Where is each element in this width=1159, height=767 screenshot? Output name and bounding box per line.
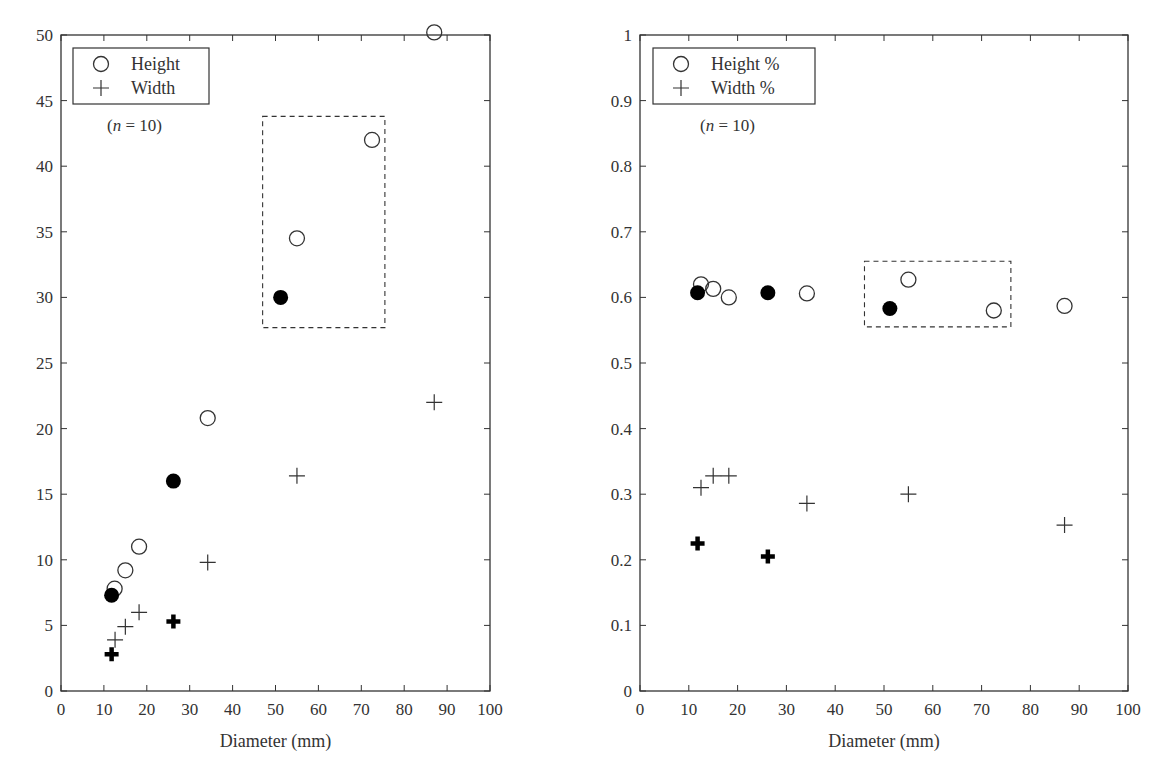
sample-size-note: (n = 10) xyxy=(107,116,162,135)
filled-circle-marker xyxy=(882,301,897,316)
bold-plus-marker xyxy=(105,647,119,661)
y-tick-label: 0 xyxy=(624,682,633,701)
bold-plus-marker xyxy=(761,550,775,564)
x-tick-label: 10 xyxy=(95,700,112,719)
y-tick-label: 0 xyxy=(45,682,54,701)
y-tick-label: 0.1 xyxy=(611,616,632,635)
open-circle-marker xyxy=(1057,298,1072,313)
series-filled-circle xyxy=(104,290,288,603)
y-tick-label: 0.4 xyxy=(611,420,633,439)
plus-marker xyxy=(426,394,442,410)
open-circle-marker xyxy=(118,563,133,578)
y-tick-label: 10 xyxy=(36,551,53,570)
right-chart-panel: 010203040506070809010000.10.20.30.40.50.… xyxy=(611,26,1141,752)
plus-marker xyxy=(693,480,709,496)
plus-marker xyxy=(1057,517,1073,533)
sample-size-note: (n = 10) xyxy=(700,116,755,135)
x-tick-label: 80 xyxy=(1022,700,1039,719)
open-circle-marker xyxy=(706,281,721,296)
y-tick-label: 0.7 xyxy=(611,223,633,242)
plus-marker xyxy=(289,468,305,484)
legend: Height %Width % xyxy=(653,48,815,104)
y-tick-label: 30 xyxy=(36,288,53,307)
figure: 0102030405060708090100051015202530354045… xyxy=(0,0,1159,767)
legend-label-width: Width xyxy=(131,78,175,98)
bold-plus-marker xyxy=(691,536,705,550)
y-tick-label: 0.6 xyxy=(611,288,632,307)
filled-circle-marker xyxy=(273,290,288,305)
series-thin-plus xyxy=(107,394,442,647)
y-tick-label: 0.9 xyxy=(611,92,632,111)
plus-marker xyxy=(200,554,216,570)
open-circle-marker xyxy=(200,411,215,426)
note-value: = 10) xyxy=(121,116,162,135)
legend-label-height: Height xyxy=(131,54,180,74)
plus-marker xyxy=(131,604,147,620)
open-circle-marker xyxy=(901,272,916,287)
filled-circle-marker xyxy=(166,474,181,489)
note-n: n xyxy=(706,116,715,135)
x-tick-label: 20 xyxy=(729,700,746,719)
open-circle-marker xyxy=(365,132,380,147)
note-value: = 10) xyxy=(714,116,755,135)
plus-marker xyxy=(799,495,815,511)
note-n: n xyxy=(113,116,122,135)
x-tick-label: 40 xyxy=(224,700,241,719)
x-tick-label: 0 xyxy=(636,700,645,719)
left-chart-panel: 0102030405060708090100051015202530354045… xyxy=(36,25,503,752)
series-open-circle xyxy=(107,25,442,596)
x-tick-label: 70 xyxy=(973,700,990,719)
y-tick-label: 15 xyxy=(36,485,53,504)
filled-circle-marker xyxy=(104,588,119,603)
x-tick-label: 90 xyxy=(1071,700,1088,719)
y-tick-label: 0.5 xyxy=(611,354,632,373)
y-tick-label: 0.2 xyxy=(611,551,632,570)
x-tick-label: 60 xyxy=(924,700,941,719)
y-tick-label: 5 xyxy=(45,616,54,635)
open-circle-marker xyxy=(721,290,736,305)
x-axis-title: Diameter (mm) xyxy=(828,731,939,752)
x-tick-label: 50 xyxy=(876,700,893,719)
open-circle-marker xyxy=(799,286,814,301)
x-tick-label: 100 xyxy=(1115,700,1141,719)
x-tick-label: 60 xyxy=(310,700,327,719)
x-tick-label: 100 xyxy=(477,700,503,719)
y-tick-label: 35 xyxy=(36,223,53,242)
series-bold-plus xyxy=(691,536,775,563)
plus-marker xyxy=(900,486,916,502)
x-tick-label: 20 xyxy=(138,700,155,719)
open-circle-marker xyxy=(986,303,1001,318)
plus-marker xyxy=(721,468,737,484)
series-thin-plus xyxy=(693,468,1073,533)
x-tick-label: 70 xyxy=(353,700,370,719)
x-tick-label: 40 xyxy=(827,700,844,719)
highlight-box xyxy=(864,261,1010,327)
y-tick-label: 25 xyxy=(36,354,53,373)
x-tick-label: 30 xyxy=(181,700,198,719)
y-tick-label: 40 xyxy=(36,157,53,176)
y-tick-label: 0.8 xyxy=(611,157,632,176)
x-tick-label: 30 xyxy=(778,700,795,719)
series-bold-plus xyxy=(105,614,181,661)
plus-marker xyxy=(117,619,133,635)
x-tick-label: 10 xyxy=(680,700,697,719)
open-circle-marker xyxy=(132,539,147,554)
open-circle-marker xyxy=(289,231,304,246)
y-tick-label: 1 xyxy=(624,26,633,45)
plus-marker xyxy=(107,632,123,648)
legend-label-width: Width % xyxy=(711,78,775,98)
y-tick-label: 20 xyxy=(36,420,53,439)
plus-marker xyxy=(705,468,721,484)
legend-label-height: Height % xyxy=(711,54,779,74)
filled-circle-marker xyxy=(760,285,775,300)
open-circle-marker xyxy=(427,25,442,40)
y-tick-label: 50 xyxy=(36,26,53,45)
y-tick-label: 0.3 xyxy=(611,485,632,504)
filled-circle-marker xyxy=(690,285,705,300)
x-tick-label: 80 xyxy=(396,700,413,719)
x-axis-title: Diameter (mm) xyxy=(220,731,331,752)
bold-plus-marker xyxy=(166,614,180,628)
y-tick-label: 45 xyxy=(36,92,53,111)
legend: HeightWidth xyxy=(73,48,209,104)
x-tick-label: 90 xyxy=(439,700,456,719)
